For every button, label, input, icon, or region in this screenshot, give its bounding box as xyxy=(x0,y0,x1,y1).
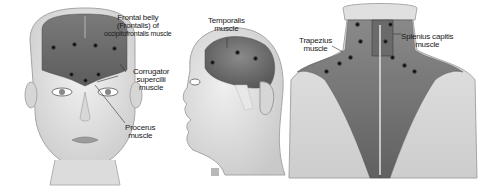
injection-point xyxy=(51,45,56,50)
label-trapezius: Trapezius muscle xyxy=(299,37,332,53)
injection-point xyxy=(402,63,407,68)
label-corrugator: Corrugator supercilii muscle xyxy=(133,68,169,92)
injection-point xyxy=(72,42,77,47)
injection-point xyxy=(210,60,215,65)
frontal-face-panel: Frontal belly (Frontalis) of occipitofro… xyxy=(0,0,170,193)
injection-point xyxy=(83,78,88,83)
lateral-head-panel: Temporalis muscle xyxy=(165,0,290,193)
injection-point xyxy=(390,55,395,60)
injection-point xyxy=(348,55,353,60)
label-frontalis: Frontal belly (Frontalis) of occipitofro… xyxy=(104,14,172,38)
injection-point xyxy=(412,69,417,74)
label-splenius-capitis: Splenius capitis muscle xyxy=(401,33,453,49)
injection-point xyxy=(93,43,98,48)
injection-point xyxy=(69,72,74,77)
injection-point xyxy=(355,22,360,27)
injection-point xyxy=(96,72,101,77)
injection-point xyxy=(235,50,240,55)
injection-point xyxy=(358,39,363,44)
posterior-neck-illustration xyxy=(285,0,479,193)
label-temporalis: Temporalis muscle xyxy=(208,17,245,33)
injection-point xyxy=(112,46,117,51)
injection-point xyxy=(388,22,393,27)
posterior-neck-panel: Trapezius muscle Splenius capitis muscle xyxy=(285,0,479,193)
injection-point xyxy=(324,69,329,74)
injection-point xyxy=(337,61,342,66)
label-procerus: Procerus muscle xyxy=(125,124,155,140)
injection-point xyxy=(383,39,388,44)
injection-point xyxy=(253,56,258,61)
